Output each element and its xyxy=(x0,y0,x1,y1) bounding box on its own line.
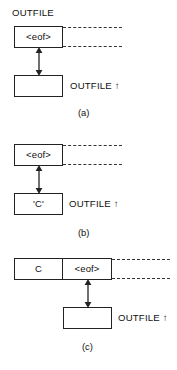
panel-c-dashed-rail-bottom xyxy=(112,278,170,279)
panel-b-double-arrow-icon xyxy=(32,165,46,194)
panel-a-stream-label: OUTFILE xyxy=(12,8,54,18)
panel-b-dashed-rail-top xyxy=(63,145,122,146)
panel-b-eof-box: <eof> xyxy=(14,144,63,166)
panel-b-caption: (b) xyxy=(78,228,89,237)
panel-a-pointer-label: OUTFILE ↑ xyxy=(70,81,120,91)
figure-panel-b: <eof> 'C' OUTFILE ↑ (b) xyxy=(0,120,177,240)
panel-a-dashed-rail-top xyxy=(63,27,122,28)
panel-b-pointer-box: 'C' xyxy=(14,193,63,215)
panel-c-pointer-label: OUTFILE ↑ xyxy=(118,313,168,323)
panel-a-pointer-box xyxy=(14,75,63,97)
panel-a-double-arrow-icon xyxy=(32,47,46,76)
panel-b-pointer-label: OUTFILE ↑ xyxy=(69,199,119,209)
panel-c-pointer-box xyxy=(63,307,112,329)
panel-a-eof-box: <eof> xyxy=(14,26,63,48)
panel-a-eof-text: <eof> xyxy=(26,32,51,42)
panel-c-caption: (c) xyxy=(82,342,93,351)
figure-panel-c: C <eof> OUTFILE ↑ (c) xyxy=(0,240,177,370)
panel-c-buffer-cell-eof: <eof> xyxy=(63,259,111,279)
panel-b-pointer-box-text: 'C' xyxy=(33,199,44,209)
panel-b-eof-text: <eof> xyxy=(26,150,51,160)
panel-a-caption: (a) xyxy=(78,108,89,117)
panel-b-dashed-rail-bottom xyxy=(63,164,122,165)
figure-panel-a: OUTFILE <eof> OUTFILE ↑ (a) xyxy=(0,0,177,120)
figure-canvas: OUTFILE <eof> OUTFILE ↑ (a) <eof> xyxy=(0,0,177,370)
panel-c-double-arrow-icon xyxy=(81,279,95,308)
panel-c-buffer-cell-char: C xyxy=(15,259,63,279)
panel-a-dashed-rail-bottom xyxy=(63,46,122,47)
panel-c-buffer-box: C <eof> xyxy=(14,258,112,280)
panel-c-dashed-rail-top xyxy=(112,259,170,260)
